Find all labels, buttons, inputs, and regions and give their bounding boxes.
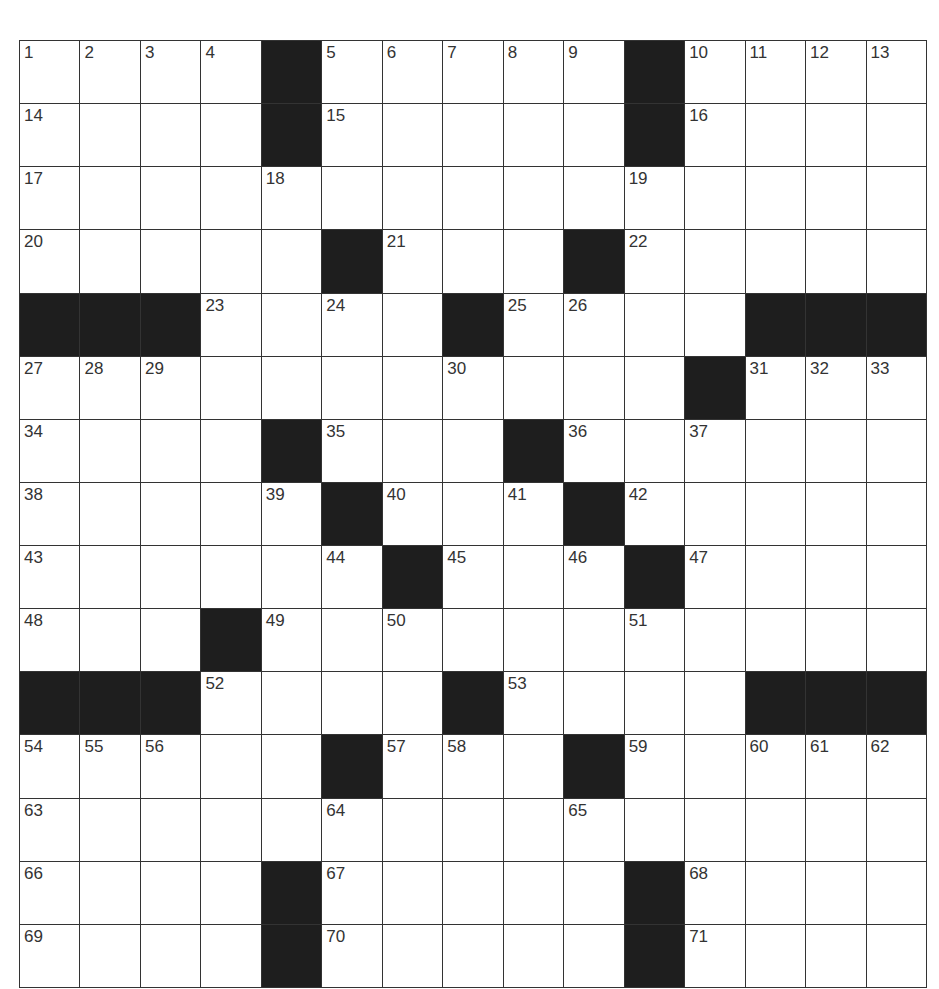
grid-cell[interactable]: 11	[746, 41, 805, 103]
grid-cell[interactable]	[80, 609, 139, 671]
grid-cell[interactable]: 24	[322, 294, 381, 356]
grid-cell[interactable]	[443, 104, 502, 166]
grid-cell[interactable]	[322, 167, 381, 229]
grid-cell[interactable]	[746, 167, 805, 229]
grid-cell[interactable]: 42	[625, 483, 684, 545]
grid-cell[interactable]	[564, 925, 623, 987]
grid-cell[interactable]	[383, 104, 442, 166]
grid-cell[interactable]	[564, 357, 623, 419]
grid-cell[interactable]: 43	[20, 546, 79, 608]
grid-cell[interactable]: 51	[625, 609, 684, 671]
grid-cell[interactable]: 60	[746, 735, 805, 797]
grid-cell[interactable]	[262, 294, 321, 356]
grid-cell[interactable]: 34	[20, 420, 79, 482]
grid-cell[interactable]	[504, 546, 563, 608]
grid-cell[interactable]: 14	[20, 104, 79, 166]
grid-cell[interactable]: 1	[20, 41, 79, 103]
grid-cell[interactable]	[141, 609, 200, 671]
grid-cell[interactable]	[201, 167, 260, 229]
grid-cell[interactable]	[141, 546, 200, 608]
grid-cell[interactable]	[201, 925, 260, 987]
grid-cell[interactable]	[201, 420, 260, 482]
grid-cell[interactable]: 5	[322, 41, 381, 103]
grid-cell[interactable]	[564, 862, 623, 924]
grid-cell[interactable]: 7	[443, 41, 502, 103]
grid-cell[interactable]	[201, 483, 260, 545]
grid-cell[interactable]: 20	[20, 230, 79, 292]
grid-cell[interactable]	[564, 672, 623, 734]
grid-cell[interactable]	[383, 167, 442, 229]
grid-cell[interactable]	[806, 546, 865, 608]
grid-cell[interactable]	[322, 609, 381, 671]
grid-cell[interactable]	[867, 546, 926, 608]
grid-cell[interactable]	[262, 546, 321, 608]
grid-cell[interactable]: 18	[262, 167, 321, 229]
grid-cell[interactable]	[262, 799, 321, 861]
grid-cell[interactable]	[80, 546, 139, 608]
grid-cell[interactable]	[867, 862, 926, 924]
grid-cell[interactable]	[262, 230, 321, 292]
grid-cell[interactable]	[564, 609, 623, 671]
grid-cell[interactable]: 13	[867, 41, 926, 103]
grid-cell[interactable]: 22	[625, 230, 684, 292]
grid-cell[interactable]	[80, 799, 139, 861]
grid-cell[interactable]: 71	[685, 925, 744, 987]
grid-cell[interactable]	[746, 230, 805, 292]
grid-cell[interactable]: 31	[746, 357, 805, 419]
grid-cell[interactable]	[504, 735, 563, 797]
grid-cell[interactable]	[867, 925, 926, 987]
grid-cell[interactable]: 46	[564, 546, 623, 608]
grid-cell[interactable]: 28	[80, 357, 139, 419]
grid-cell[interactable]	[504, 357, 563, 419]
grid-cell[interactable]: 63	[20, 799, 79, 861]
grid-cell[interactable]	[685, 483, 744, 545]
grid-cell[interactable]	[685, 735, 744, 797]
grid-cell[interactable]: 69	[20, 925, 79, 987]
grid-cell[interactable]	[80, 230, 139, 292]
grid-cell[interactable]	[806, 104, 865, 166]
grid-cell[interactable]	[685, 294, 744, 356]
grid-cell[interactable]	[383, 420, 442, 482]
grid-cell[interactable]: 52	[201, 672, 260, 734]
grid-cell[interactable]: 25	[504, 294, 563, 356]
grid-cell[interactable]	[746, 483, 805, 545]
grid-cell[interactable]	[443, 483, 502, 545]
grid-cell[interactable]: 45	[443, 546, 502, 608]
grid-cell[interactable]	[867, 799, 926, 861]
grid-cell[interactable]	[201, 104, 260, 166]
grid-cell[interactable]: 9	[564, 41, 623, 103]
grid-cell[interactable]	[80, 104, 139, 166]
grid-cell[interactable]	[141, 167, 200, 229]
grid-cell[interactable]: 35	[322, 420, 381, 482]
grid-cell[interactable]	[443, 230, 502, 292]
grid-cell[interactable]	[685, 609, 744, 671]
grid-cell[interactable]	[383, 925, 442, 987]
grid-cell[interactable]: 47	[685, 546, 744, 608]
grid-cell[interactable]	[806, 420, 865, 482]
grid-cell[interactable]	[746, 609, 805, 671]
grid-cell[interactable]	[625, 357, 684, 419]
grid-cell[interactable]	[806, 862, 865, 924]
grid-cell[interactable]	[625, 672, 684, 734]
grid-cell[interactable]: 59	[625, 735, 684, 797]
grid-cell[interactable]	[383, 672, 442, 734]
grid-cell[interactable]: 65	[564, 799, 623, 861]
grid-cell[interactable]	[322, 357, 381, 419]
grid-cell[interactable]	[80, 483, 139, 545]
grid-cell[interactable]	[746, 420, 805, 482]
grid-cell[interactable]: 26	[564, 294, 623, 356]
grid-cell[interactable]	[443, 420, 502, 482]
grid-cell[interactable]	[141, 483, 200, 545]
grid-cell[interactable]	[443, 862, 502, 924]
grid-cell[interactable]	[504, 104, 563, 166]
grid-cell[interactable]	[80, 862, 139, 924]
grid-cell[interactable]	[806, 230, 865, 292]
grid-cell[interactable]: 68	[685, 862, 744, 924]
grid-cell[interactable]	[867, 104, 926, 166]
grid-cell[interactable]: 61	[806, 735, 865, 797]
grid-cell[interactable]	[201, 230, 260, 292]
grid-cell[interactable]	[443, 799, 502, 861]
grid-cell[interactable]: 36	[564, 420, 623, 482]
grid-cell[interactable]: 44	[322, 546, 381, 608]
grid-cell[interactable]: 27	[20, 357, 79, 419]
